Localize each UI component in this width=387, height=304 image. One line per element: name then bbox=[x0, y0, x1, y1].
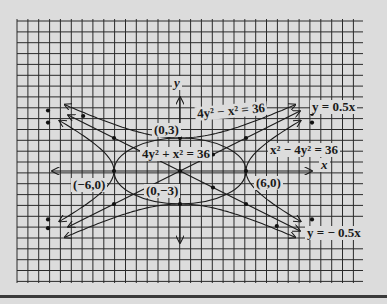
label-asymptote-positive: y = 0.5x bbox=[310, 100, 357, 114]
plot-point bbox=[244, 202, 248, 206]
label-point-top: (0,3) bbox=[152, 123, 181, 137]
plot-point bbox=[81, 114, 85, 118]
plot-point bbox=[46, 217, 50, 221]
plot-point bbox=[275, 224, 279, 228]
label-point-right: (6,0) bbox=[254, 176, 283, 190]
plot-point bbox=[178, 169, 182, 173]
plot-point bbox=[178, 202, 182, 206]
plot-point bbox=[310, 121, 314, 125]
graph-figure: y x 4y² − x² = 36 4y² + x² = 36 x² − 4y²… bbox=[0, 0, 387, 304]
plot-point bbox=[112, 202, 116, 206]
asymptote-positive-line bbox=[68, 111, 300, 227]
x-axis-label: x bbox=[319, 158, 330, 172]
plot-point bbox=[244, 136, 248, 140]
label-ellipse: 4y² + x² = 36 bbox=[140, 147, 212, 161]
label-hyperbola-horizontal: x² − 4y² = 36 bbox=[268, 143, 340, 157]
plot-point bbox=[112, 136, 116, 140]
plot-point bbox=[46, 121, 50, 125]
y-axis-label: y bbox=[172, 76, 182, 90]
page-bottom-rule bbox=[0, 295, 387, 298]
plot-point bbox=[46, 226, 50, 230]
plot-point bbox=[46, 108, 50, 112]
plot-point bbox=[310, 217, 314, 221]
plot-point bbox=[244, 169, 248, 173]
label-asymptote-negative: y = − 0.5x bbox=[305, 226, 363, 240]
label-point-bottom: (0,−3) bbox=[144, 184, 180, 198]
plot-point bbox=[112, 169, 116, 173]
label-point-left: (−6,0) bbox=[71, 178, 107, 192]
plot-point bbox=[211, 185, 215, 189]
